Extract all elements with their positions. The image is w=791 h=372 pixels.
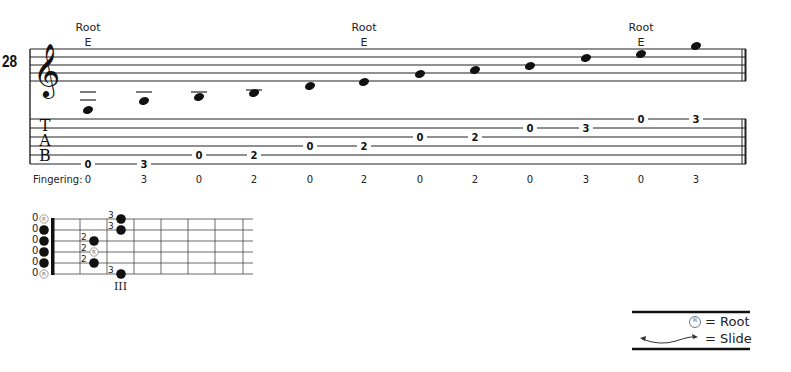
open-string-label: 0 — [32, 245, 38, 256]
finger-number: 2 — [467, 174, 483, 185]
open-string-label: 0 — [32, 256, 38, 267]
note-head — [82, 105, 94, 116]
legend-slide-text: = Slide — [705, 331, 752, 346]
svg-text:R: R — [42, 271, 46, 277]
finger-number: 0 — [412, 174, 428, 185]
finger-number: 0 — [522, 174, 538, 185]
root-symbol-letter: R — [692, 316, 698, 323]
fretboard-finger-number: 2 — [81, 232, 87, 242]
slide-arrow-icon — [642, 337, 696, 343]
tab-fret-number: 2 — [247, 151, 261, 160]
tab-fret-number: 3 — [137, 160, 151, 169]
fretboard-finger-number: 3 — [108, 265, 114, 275]
finger-number: 0 — [80, 174, 96, 185]
finger-number: 3 — [578, 174, 594, 185]
note-head — [469, 65, 481, 76]
root-label: Root — [68, 21, 108, 34]
fretboard-finger-number: 2 — [81, 254, 87, 264]
legend-root-text: = Root — [705, 314, 749, 329]
fretboard-finger-number: 2 — [81, 243, 87, 253]
tab-fret-number: 2 — [357, 142, 371, 151]
treble-clef-icon: 𝄞 — [33, 43, 60, 99]
notation-canvas: 𝄞 RRR — [0, 0, 791, 372]
notes — [80, 41, 702, 116]
tab-staff — [30, 119, 746, 164]
svg-text:R: R — [92, 249, 96, 255]
note-head — [358, 77, 370, 88]
open-string-label: 0 — [32, 223, 38, 234]
note-head — [414, 69, 426, 80]
note-head — [580, 53, 592, 64]
fretboard-finger-number: 3 — [108, 221, 114, 231]
root-note-name: E — [344, 36, 384, 49]
root-note-name: E — [68, 36, 108, 49]
root-label: Root — [621, 21, 661, 34]
note-head — [690, 41, 702, 52]
note-head — [524, 61, 536, 72]
fretboard-diagram: RRR — [39, 214, 253, 279]
root-label: Root — [344, 21, 384, 34]
note-head — [193, 92, 205, 103]
finger-number: 0 — [302, 174, 318, 185]
fingering-label: Fingering: — [33, 174, 83, 185]
tab-fret-number: 0 — [303, 142, 317, 151]
tab-fret-number: 0 — [523, 124, 537, 133]
finger-number: 2 — [356, 174, 372, 185]
note-head — [138, 96, 150, 107]
note-head — [248, 88, 260, 99]
note-head — [635, 49, 647, 60]
tab-fret-number: 3 — [579, 124, 593, 133]
svg-text:R: R — [42, 216, 46, 222]
finger-number: 2 — [246, 174, 262, 185]
tab-fret-number: 0 — [634, 115, 648, 124]
note-head — [304, 81, 316, 92]
root-note-name: E — [621, 36, 661, 49]
tab-fret-number: 3 — [689, 115, 703, 124]
fretboard-finger-number: 3 — [108, 210, 114, 220]
open-string-label: 0 — [32, 212, 38, 223]
open-string-label: 0 — [32, 267, 38, 278]
finger-number: 0 — [633, 174, 649, 185]
barlines — [30, 49, 746, 164]
tab-letter-b: B — [38, 148, 52, 163]
finger-number: 3 — [688, 174, 704, 185]
tab-fret-number: 0 — [413, 133, 427, 142]
tab-fret-number: 0 — [192, 151, 206, 160]
finger-number: 3 — [136, 174, 152, 185]
open-string-label: 0 — [32, 234, 38, 245]
position-label: III — [114, 280, 127, 293]
tab-fret-number: 0 — [81, 160, 95, 169]
tab-clef: T A B — [38, 118, 52, 163]
tab-fret-number: 2 — [468, 133, 482, 142]
finger-number: 0 — [191, 174, 207, 185]
